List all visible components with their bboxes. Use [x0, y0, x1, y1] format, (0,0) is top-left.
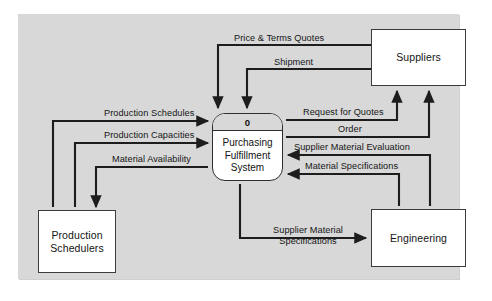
flow-label-price-terms-quotes: Price & Terms Quotes: [234, 33, 324, 44]
external-entity-production-schedulers[interactable]: Production Schedulers: [38, 210, 116, 273]
flow-label-shipment: Shipment: [274, 57, 313, 68]
external-entity-suppliers[interactable]: Suppliers: [371, 29, 466, 86]
external-entity-production-schedulers-label: Production Schedulers: [39, 229, 115, 255]
flow-label-supplier-material-evaluation: Supplier Material Evaluation: [294, 142, 410, 153]
external-entity-suppliers-label: Suppliers: [396, 51, 441, 64]
process-purchasing-fulfillment-system[interactable]: 0 Purchasing Fulfillment System: [212, 113, 283, 181]
flow-label-material-specifications: Material Specifications: [305, 161, 398, 172]
dfd-canvas: 0 Purchasing Fulfillment System Supplier…: [0, 0, 492, 301]
flow-label-material-availability: Material Availability: [112, 154, 191, 165]
flow-label-order: Order: [338, 124, 362, 135]
flow-line-price-terms-quotes: [218, 45, 371, 108]
flow-line-material-availability: [96, 167, 208, 207]
process-id: 0: [213, 114, 282, 131]
process-label: Purchasing Fulfillment System: [213, 131, 282, 181]
flow-label-request-for-quotes: Request for Quotes: [303, 107, 384, 118]
flow-line-material-specifications: [288, 174, 399, 206]
flow-line-shipment: [247, 69, 371, 108]
external-entity-engineering[interactable]: Engineering: [371, 209, 466, 267]
flow-label-supplier-material-specifications: Supplier Material Specifications: [262, 225, 354, 247]
flow-label-production-capacities: Production Capacities: [104, 130, 194, 141]
external-entity-engineering-label: Engineering: [390, 232, 447, 245]
flow-label-production-schedules: Production Schedules: [104, 108, 194, 119]
